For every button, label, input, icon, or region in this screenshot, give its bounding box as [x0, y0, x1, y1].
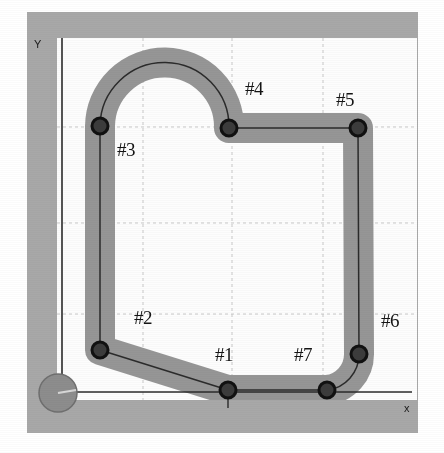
waypoint-label: #1	[215, 345, 233, 364]
waypoint-node[interactable]	[92, 118, 108, 134]
path-diagram-svg	[0, 0, 444, 453]
waypoint-node[interactable]	[92, 342, 108, 358]
y-axis-label: Y	[34, 39, 41, 50]
waypoint-label: #2	[134, 308, 152, 327]
x-axis-label: x	[404, 403, 410, 414]
waypoint-label: #6	[381, 311, 399, 330]
waypoint-label: #3	[117, 140, 135, 159]
waypoint-node[interactable]	[220, 382, 236, 398]
waypoint-node[interactable]	[221, 120, 237, 136]
waypoint-label: #5	[336, 90, 354, 109]
waypoint-node[interactable]	[351, 346, 367, 362]
waypoint-node[interactable]	[319, 382, 335, 398]
waypoint-label: #7	[294, 345, 312, 364]
figure-canvas: #1#2#3#4#5#6#7 Y x	[0, 0, 444, 453]
robot[interactable]	[39, 374, 77, 412]
waypoint-node[interactable]	[350, 120, 366, 136]
waypoint-label: #4	[245, 79, 263, 98]
